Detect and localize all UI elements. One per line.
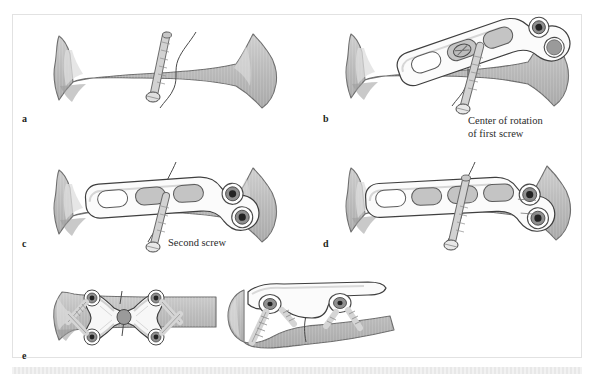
panel-d-illustration: [340, 150, 590, 255]
panel-e-frontal-illustration: [48, 278, 223, 358]
panel-e-lateral: [222, 272, 402, 360]
panel-b-illustration: [340, 14, 590, 124]
panel-label-e: e: [22, 350, 26, 361]
panel-a: [50, 20, 290, 120]
panel-label-d: d: [323, 238, 329, 249]
panel-a-illustration: [50, 20, 290, 120]
center-of-rotation-label: Center of rotation of first screw: [468, 114, 543, 140]
second-screw-label: Second screw: [168, 236, 226, 249]
panel-label-c: c: [22, 238, 26, 249]
panel-b: [340, 14, 590, 124]
central-hole: [117, 310, 131, 325]
figure-canvas: a: [0, 0, 596, 376]
panel-d: [340, 150, 590, 255]
plate-rotated: [85, 173, 260, 241]
bottom-edge-strip: [12, 367, 582, 374]
panel-e-frontal: [48, 278, 223, 358]
panel-label-b: b: [323, 113, 329, 124]
panel-e-lateral-illustration: [222, 272, 402, 360]
panel-label-a: a: [22, 113, 27, 124]
lag-screw: [146, 32, 172, 102]
lateral-screw-head-left: [259, 295, 281, 314]
